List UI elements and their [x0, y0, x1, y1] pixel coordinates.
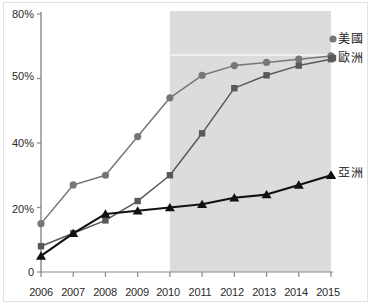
x-tick-label-2015: 2015	[306, 287, 350, 298]
shaded-period-band	[170, 11, 331, 272]
y-tick-label-0: 0	[5, 267, 34, 278]
data-point-marker	[37, 220, 44, 227]
data-point-marker	[70, 181, 77, 188]
y-tick-label-60: 50%	[5, 71, 34, 82]
legend-marker-europe	[330, 55, 336, 61]
data-point-marker	[199, 130, 205, 136]
data-point-marker	[166, 94, 173, 101]
data-point-marker	[263, 72, 269, 78]
data-point-marker	[134, 198, 140, 204]
data-point-marker	[295, 56, 302, 63]
y-tick-label-40: 40%	[5, 138, 34, 149]
band-highlight-streak	[171, 54, 330, 56]
chart-screenshot: 80% 50% 40% 20% 0 2006 2007 2008 2009 20…	[0, 0, 372, 307]
series-label-us: 美國	[338, 33, 363, 45]
data-point-marker	[134, 133, 141, 140]
data-point-marker	[263, 59, 270, 66]
data-point-marker	[231, 62, 238, 69]
line-chart-plot	[0, 0, 372, 307]
data-point-marker	[38, 243, 44, 249]
data-point-marker	[102, 217, 108, 223]
data-point-marker	[102, 172, 109, 179]
y-tick-label-20: 20%	[5, 204, 34, 215]
data-point-marker	[199, 72, 206, 79]
data-point-marker	[68, 229, 78, 237]
legend-marker-us	[329, 35, 336, 42]
y-tick-label-80: 80%	[5, 9, 34, 20]
data-point-marker	[167, 172, 173, 178]
series-label-europe: 歐洲	[338, 52, 363, 64]
series-label-asia: 亞洲	[338, 167, 363, 179]
data-point-marker	[296, 62, 302, 68]
data-point-marker	[231, 85, 237, 91]
